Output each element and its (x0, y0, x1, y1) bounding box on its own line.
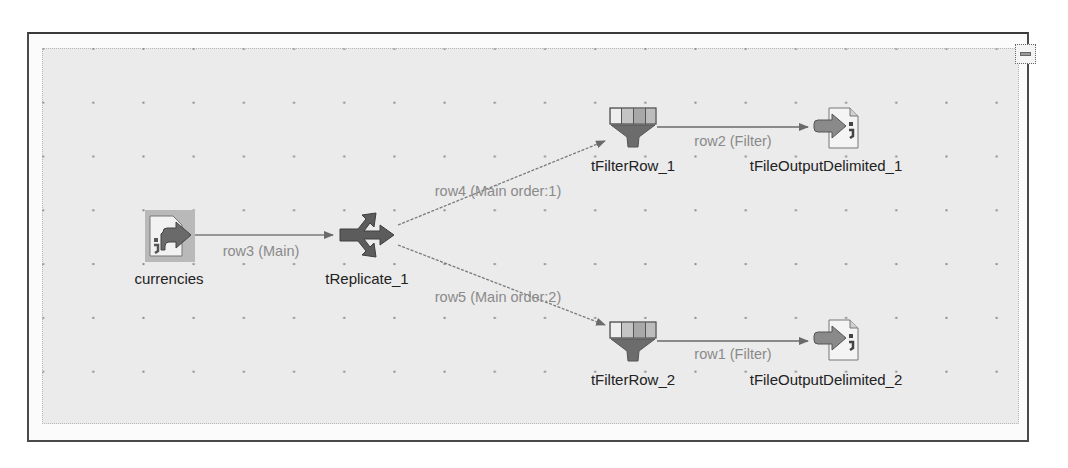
minimize-button[interactable] (1015, 44, 1036, 64)
link-label-row1[interactable]: row1 (Filter) (694, 346, 771, 362)
link-label-row3[interactable]: row3 (Main) (223, 243, 300, 259)
node-label-tfilterrow-1: tFilterRow_1 (591, 157, 675, 174)
file-output-icon (812, 318, 860, 362)
node-label-tfileoutputdelimited-2: tFileOutputDelimited_2 (750, 371, 903, 388)
file-output-icon (812, 106, 860, 150)
node-tfileoutputdelimited-2[interactable] (812, 318, 860, 362)
node-label-currencies: currencies (134, 270, 203, 287)
node-tfileoutputdelimited-1[interactable] (812, 106, 860, 150)
file-input-icon (145, 210, 195, 262)
filter-icon (609, 107, 657, 149)
node-tfilterrow-1[interactable] (609, 107, 657, 149)
node-label-tfileoutputdelimited-1: tFileOutputDelimited_1 (750, 157, 903, 174)
node-label-tfilterrow-2: tFilterRow_2 (591, 371, 675, 388)
node-currencies[interactable] (145, 210, 195, 262)
node-tfilterrow-2[interactable] (609, 321, 657, 363)
link-label-row2[interactable]: row2 (Filter) (694, 133, 771, 149)
node-treplicate-1[interactable] (336, 209, 398, 261)
minimize-icon (1020, 52, 1031, 56)
filter-icon (609, 321, 657, 363)
link-label-row5[interactable]: row5 (Main order:2) (435, 289, 562, 305)
link-label-row4[interactable]: row4 (Main order:1) (435, 183, 562, 199)
node-label-treplicate-1: tReplicate_1 (325, 270, 408, 287)
replicate-icon (336, 209, 398, 261)
